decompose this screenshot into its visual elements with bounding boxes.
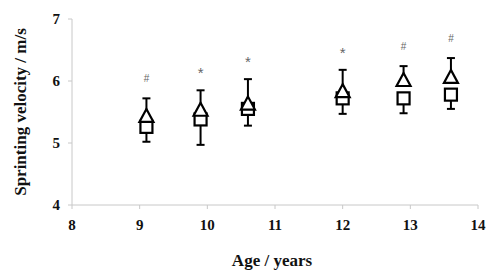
triangle-marker	[139, 109, 153, 122]
hash-annotation: #	[448, 33, 454, 44]
axes	[68, 19, 478, 209]
x-tick-label: 14	[471, 217, 487, 233]
tick-labels: 4567891011121314	[53, 11, 487, 233]
triangle-marker	[194, 103, 208, 116]
y-tick-label: 4	[53, 197, 61, 213]
y-tick-label: 7	[53, 11, 61, 27]
y-tick-label: 6	[53, 73, 61, 89]
triangle-marker	[444, 70, 458, 83]
x-tick-label: 12	[335, 217, 350, 233]
asterisk-annotation: *	[198, 64, 204, 81]
square-marker	[398, 92, 410, 104]
triangle-marker	[397, 73, 411, 86]
square-marker	[445, 89, 457, 101]
x-tick-label: 9	[136, 217, 144, 233]
asterisk-annotation: *	[245, 53, 251, 70]
x-tick-label: 13	[403, 217, 418, 233]
data-point-group: *	[336, 44, 350, 114]
y-axis-title: Sprinting velocity / m/s	[11, 28, 30, 196]
plot-area: #***##	[139, 33, 458, 145]
data-point-group: #	[444, 33, 458, 109]
hash-annotation: #	[144, 73, 150, 84]
triangle-marker	[336, 84, 350, 97]
data-point-group: *	[194, 64, 208, 145]
chart: 4567891011121314 #***## Age / years Spri…	[0, 0, 502, 280]
data-point-group: #	[397, 41, 411, 113]
data-point-group: *	[241, 53, 255, 126]
y-tick-label: 5	[53, 135, 61, 151]
x-tick-label: 8	[68, 217, 76, 233]
x-tick-label: 11	[268, 217, 282, 233]
asterisk-annotation: *	[340, 44, 346, 61]
x-axis-title: Age / years	[232, 251, 313, 270]
x-tick-label: 10	[200, 217, 215, 233]
data-point-group: #	[139, 73, 153, 141]
hash-annotation: #	[401, 41, 407, 52]
